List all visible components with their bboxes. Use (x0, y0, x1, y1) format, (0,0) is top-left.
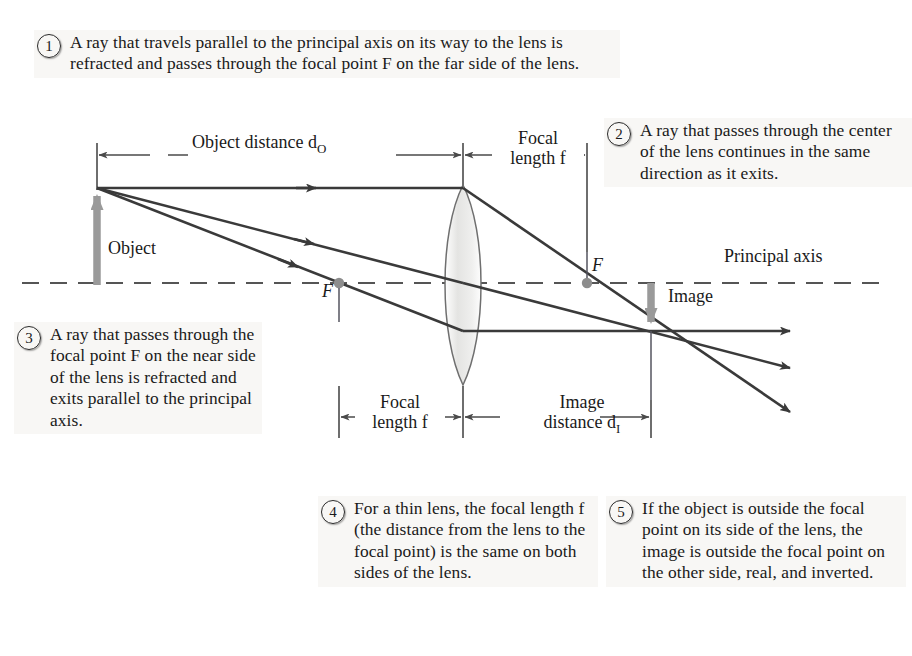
callout-4: 4 For a thin lens, the focal length f (t… (318, 496, 598, 587)
label-image: Image (668, 286, 713, 306)
callout-text-4: For a thin lens, the focal length f (the… (354, 498, 594, 584)
ray-2-incoming-center (97, 188, 463, 283)
callout-5: 5 If the object is outside the focal poi… (606, 496, 906, 587)
label-focal-length-bottom: Focal length f (357, 392, 443, 432)
callout-number-3: 3 (17, 326, 41, 350)
ray-1-refracted (463, 188, 790, 412)
callout-text-2: A ray that passes through the center of … (640, 120, 908, 184)
callout-text-3: A ray that passes through the focal poin… (50, 324, 258, 431)
callout-text-5: If the object is outside the focal point… (642, 498, 902, 584)
callout-3: 3 A ray that passes through the focal po… (14, 322, 262, 434)
focal-point-near-dot (334, 278, 344, 288)
label-focal-length-top: Focal length f (492, 128, 584, 168)
callout-number-2: 2 (607, 122, 631, 146)
label-focal-point-near: F (322, 281, 333, 301)
label-image-distance: Image distance dI (512, 392, 652, 439)
callout-text-1: A ray that travels parallel to the princ… (70, 32, 616, 75)
focal-point-far-dot (582, 278, 592, 288)
ray-2-incoming-arrowhead (294, 239, 314, 244)
callout-number-5: 5 (609, 500, 633, 524)
figure-root: Object distance dO Focal length f Object… (0, 0, 912, 656)
callout-1: 1 A ray that travels parallel to the pri… (34, 30, 620, 78)
callout-2: 2 A ray that passes through the center o… (604, 118, 912, 187)
callout-number-4: 4 (321, 500, 345, 524)
label-principal-axis: Principal axis (724, 246, 822, 266)
label-object: Object (108, 238, 156, 258)
label-focal-point-far: F (592, 255, 603, 275)
ray-2-continued (463, 283, 790, 368)
label-object-distance: Object distance dO (188, 132, 330, 159)
callout-number-1: 1 (37, 34, 61, 58)
ray-3-incoming-arrowhead (278, 259, 298, 267)
